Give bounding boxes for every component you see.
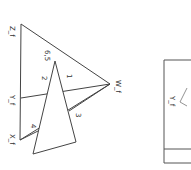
- right-angle-mark: [180, 88, 187, 106]
- svg-text:6,5: 6,5: [43, 50, 51, 61]
- label-region-4: 4: [29, 124, 37, 129]
- label-zf: Z_f: [8, 26, 16, 37]
- label-region-3: 3: [74, 113, 82, 117]
- svg-text:3: 3: [74, 113, 82, 117]
- svg-text:2: 2: [40, 76, 48, 80]
- svg-text:X_f: X_f: [8, 134, 16, 145]
- label-xf: X_f: [8, 134, 16, 145]
- geometry-diagram: Z_f Y_f X_f W_f 6,5 1 2 3 4 Y_f: [0, 0, 191, 170]
- svg-text:Y_f: Y_f: [8, 94, 16, 106]
- label-region-2: 2: [40, 76, 48, 80]
- svg-text:W_f: W_f: [114, 80, 122, 93]
- label-yf: Y_f: [8, 94, 16, 106]
- label-wf: W_f: [114, 80, 122, 93]
- label-apex: 6,5: [43, 50, 51, 61]
- svg-text:4: 4: [29, 124, 37, 129]
- svg-text:Y_f: Y_f: [168, 95, 176, 107]
- svg-text:Z_f: Z_f: [8, 26, 16, 37]
- label-right-yf: Y_f: [168, 95, 176, 107]
- svg-text:1: 1: [65, 74, 73, 78]
- label-region-1: 1: [65, 74, 73, 78]
- line-yf-wf: [21, 84, 110, 98]
- line-xf-4: [20, 131, 38, 140]
- right-frame: [164, 60, 191, 163]
- line-wf-3: [69, 84, 110, 111]
